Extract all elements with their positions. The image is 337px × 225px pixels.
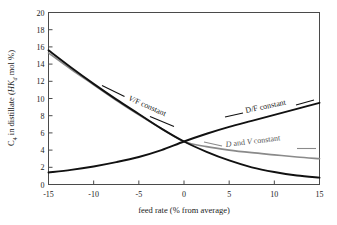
curve-annotation-d-and-v-constant: D and V constant xyxy=(224,133,281,149)
y-tick-label: 12 xyxy=(37,77,45,86)
x-tick-label: 5 xyxy=(227,190,231,199)
x-tick-label: -10 xyxy=(88,190,99,199)
x-axis-tick-labels: -15-10-5051015 xyxy=(43,190,323,199)
x-axis-tickmarks xyxy=(49,181,320,185)
leader-line-d-and-v-left xyxy=(204,142,222,146)
y-tick-label: 2 xyxy=(41,163,45,172)
x-tick-label: 10 xyxy=(270,190,278,199)
x-tick-label: 15 xyxy=(316,190,324,199)
y-tick-label: 18 xyxy=(37,26,45,35)
y-axis-title: C4 in distillate (HKd mol %) xyxy=(6,50,18,146)
x-tick-label: -15 xyxy=(43,190,54,199)
y-tick-label: 4 xyxy=(41,146,45,155)
y-axis-tickmarks xyxy=(49,13,53,185)
y-axis-tick-labels: 02468101214161820 xyxy=(37,9,45,190)
x-tick-label: -5 xyxy=(135,190,142,199)
y-tick-label: 8 xyxy=(41,112,45,121)
y-tick-label: 0 xyxy=(41,181,45,190)
x-tick-label: 0 xyxy=(182,190,186,199)
y-tick-label: 10 xyxy=(37,95,45,104)
chart-figure: 02468101214161820 -15-10-5051015 V/F con… xyxy=(0,0,337,225)
curve-annotation-v-f-constant: V/F constant xyxy=(127,94,168,119)
y-tick-label: 20 xyxy=(37,9,45,18)
x-axis-title: feed rate (% from average) xyxy=(138,205,230,215)
leader-line-v-f-right xyxy=(150,117,174,127)
y-tick-label: 14 xyxy=(37,60,45,69)
y-tick-label: 6 xyxy=(41,129,45,138)
leader-line-d-f-left xyxy=(225,113,243,117)
y-tick-label: 16 xyxy=(37,43,45,52)
